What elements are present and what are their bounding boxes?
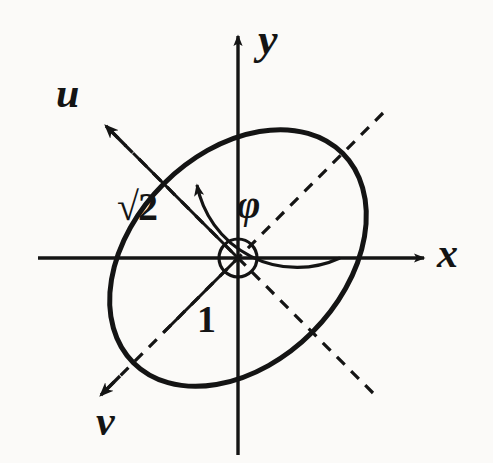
v-axis-arrow: [101, 376, 120, 395]
v-axis-label: v: [96, 400, 115, 442]
u-axis-label: u: [56, 72, 79, 114]
y-axis-label: y: [258, 18, 278, 62]
x-axis-label: x: [437, 232, 458, 274]
angle-phi-label: φ: [237, 185, 260, 225]
semi-major-length-label: √2: [117, 187, 157, 227]
u-axis-arrow: [106, 126, 126, 146]
semi-minor-length-label: 1: [197, 300, 216, 338]
ellipse-rotation-figure: y x u v φ √2 1: [0, 0, 493, 463]
